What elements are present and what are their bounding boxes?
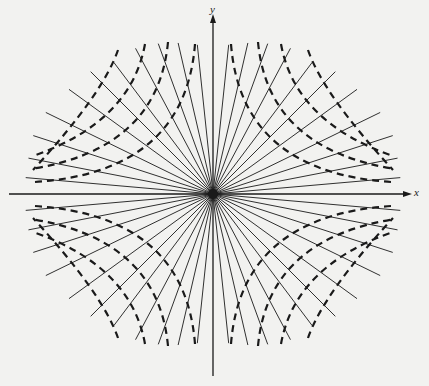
dashed-curve [33,44,145,156]
solid-line [91,194,213,316]
orthogonal-trajectories-diagram: x y [0,0,429,386]
dashed-curve [281,44,393,156]
dashed-curve [281,232,393,344]
solid-line [213,158,398,194]
solid-line [28,158,213,194]
origin-point [208,189,218,199]
solid-line [28,194,213,230]
solid-line [213,72,335,194]
x-axis-label: x [414,186,419,198]
dashed-curve [308,218,393,338]
dashed-curve [33,232,145,344]
solid-line [213,194,398,230]
solid-line [69,194,213,299]
solid-line [91,72,213,194]
dashed-curve [35,206,195,344]
y-axis-arrow-icon [210,14,216,23]
dashed-curve [35,44,195,182]
solid-line [213,194,335,316]
solid-line [213,89,357,194]
axes [9,14,412,376]
dashed-curve [33,218,118,338]
dashed-curve [33,50,118,170]
dashed-curve [231,206,391,344]
x-axis-arrow-icon [403,191,412,197]
solid-line [69,89,213,194]
plot-canvas [0,0,429,386]
solid-line [213,194,357,299]
dashed-curve [231,44,391,182]
dashed-curve [308,50,393,170]
y-axis-label: y [210,3,215,15]
